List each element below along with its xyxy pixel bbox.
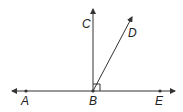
label-a: A: [21, 95, 29, 107]
label-e: E: [155, 95, 163, 107]
point-e: [158, 89, 161, 92]
point-a: [24, 89, 27, 92]
ray-bd: [93, 17, 132, 91]
label-b: B: [89, 95, 97, 107]
geometry-diagram: A B E C D: [0, 0, 183, 112]
label-c: C: [82, 18, 91, 30]
label-d: D: [128, 27, 137, 39]
point-b: [91, 89, 94, 92]
